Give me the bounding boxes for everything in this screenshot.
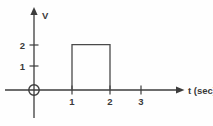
x-axis-arrow-icon — [176, 86, 185, 93]
pulse-waveform-trace — [72, 45, 110, 90]
x-tick-label-1: 1 — [69, 96, 75, 107]
y-axis-arrow-icon — [30, 7, 37, 15]
x-axis-title: t (sec) — [188, 85, 213, 96]
x-tick-label-2: 2 — [107, 96, 112, 107]
voltage-pulse-figure: 2 1 1 2 3 V t (sec) — [0, 0, 213, 126]
x-tick-label-3: 3 — [138, 96, 143, 107]
plot-canvas: 2 1 1 2 3 V t (sec) — [0, 0, 213, 126]
y-tick-label-2: 2 — [20, 40, 25, 51]
y-tick-label-1: 1 — [20, 61, 26, 72]
y-axis-title: V — [42, 10, 49, 21]
